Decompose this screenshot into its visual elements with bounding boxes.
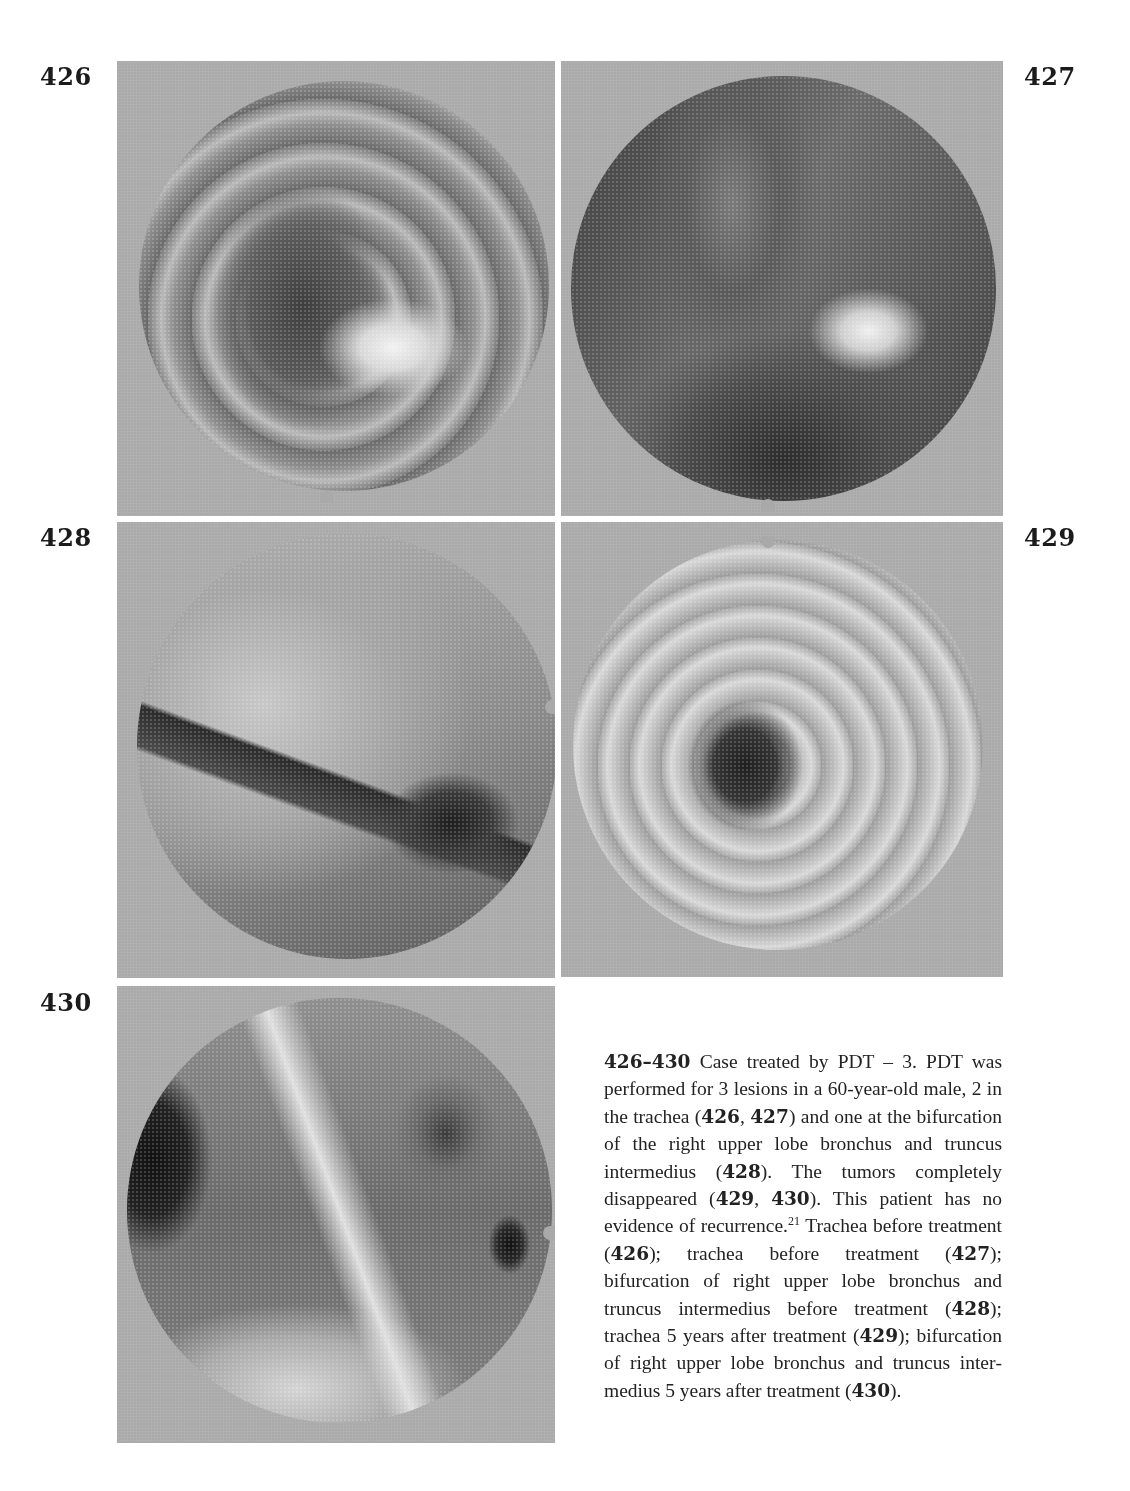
bronchoscope-view [137,534,555,959]
bronchoscope-view [573,540,983,950]
scope-notch [543,1226,555,1240]
caption-body: PDT was performed for 3 lesions in a 60-… [604,1051,1002,1401]
figure-reference: 427 [750,1106,789,1127]
figure-reference: 427 [951,1243,990,1264]
caption-title: Case treated by PDT – 3. [700,1051,917,1072]
endoscopy-image-427 [561,61,1003,516]
figure-number-430: 430 [40,988,92,1017]
figure-number-426: 426 [40,62,92,91]
caption-text: ). [890,1380,901,1401]
bronchoscope-view [139,81,549,491]
endoscopy-image-430 [117,986,555,1443]
endoscopy-image-426 [117,61,555,516]
caption-figure-range: 426–430 [604,1051,690,1072]
figure-number-429: 429 [1024,523,1076,552]
endoscopy-image-429 [561,522,1003,977]
figure-reference: 426 [611,1243,650,1264]
scope-notch [320,491,334,503]
figure-reference: 428 [722,1161,761,1182]
figure-reference: 430 [851,1380,890,1401]
endoscopy-image-428 [117,522,555,978]
figure-reference: 430 [771,1188,810,1209]
bronchoscope-view [571,76,996,501]
scope-notch [761,499,775,511]
figure-number-428: 428 [40,523,92,552]
caption-text: , [754,1188,771,1209]
figure-reference: 429 [716,1188,755,1209]
figure-reference: 428 [951,1298,990,1319]
scope-notch [545,700,555,714]
bronchoscope-view [127,998,552,1423]
caption-text: ); trachea before treat­ment ( [649,1243,951,1264]
caption-text: , [740,1106,750,1127]
figure-reference: 426 [701,1106,740,1127]
figure-caption: 426–430 Case treated by PDT – 3. PDT was… [604,1048,1002,1404]
citation-superscript: 21 [788,1214,800,1228]
figure-reference: 429 [859,1325,898,1346]
figure-number-427: 427 [1024,62,1076,91]
